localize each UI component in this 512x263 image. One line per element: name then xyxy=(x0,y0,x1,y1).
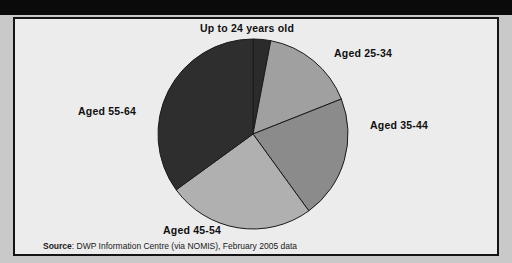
pie-chart-svg xyxy=(15,19,497,254)
screenshot-root: Up to 24 years old Aged 25-34 Aged 35-44… xyxy=(0,0,512,263)
pie-chart: Up to 24 years old Aged 25-34 Aged 35-44… xyxy=(15,19,497,254)
pie-label-aged-35-44: Aged 35-44 xyxy=(370,119,428,131)
pie-label-aged-25-34: Aged 25-34 xyxy=(334,47,392,59)
source-note-label: Source xyxy=(43,241,72,251)
pie-label-up-to-24: Up to 24 years old xyxy=(200,22,294,34)
pie-label-aged-55-64: Aged 55-64 xyxy=(78,105,136,117)
source-note-text: DWP Information Centre (via NOMIS), Febr… xyxy=(77,241,297,251)
source-note: Source: DWP Information Centre (via NOMI… xyxy=(43,241,297,251)
window-title-bar xyxy=(0,0,512,15)
chart-figure-panel: Up to 24 years old Aged 25-34 Aged 35-44… xyxy=(13,17,499,256)
pie-label-aged-45-54: Aged 45-54 xyxy=(163,224,221,236)
pie-slice-group xyxy=(158,39,348,229)
